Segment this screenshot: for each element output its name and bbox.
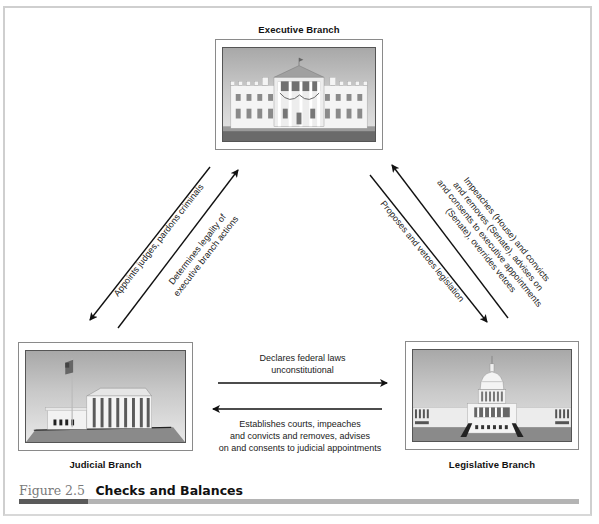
- caption-rule: [19, 499, 579, 504]
- executive-branch-title: Executive Branch: [215, 24, 383, 35]
- label-judicial-to-legislative: Declares federal laws unconstitutional: [215, 352, 390, 376]
- legislative-branch-title: Legislative Branch: [405, 459, 579, 470]
- label-legislative-to-judicial: Establishes courts, impeaches and convic…: [200, 418, 400, 454]
- judicial-branch-image: [18, 342, 193, 451]
- legislative-branch-image: [405, 341, 579, 450]
- figure-title: Checks and Balances: [95, 483, 243, 498]
- white-house-icon: [223, 48, 375, 141]
- caption-rule-accent: [19, 499, 88, 504]
- judicial-branch-title: Judicial Branch: [18, 459, 193, 470]
- figure-number: Figure 2.5: [19, 483, 85, 498]
- figure-caption: Figure 2.5 Checks and Balances: [19, 481, 243, 497]
- executive-branch-image: [215, 39, 383, 150]
- supreme-court-icon: [26, 351, 185, 442]
- capitol-building-icon: [413, 350, 571, 441]
